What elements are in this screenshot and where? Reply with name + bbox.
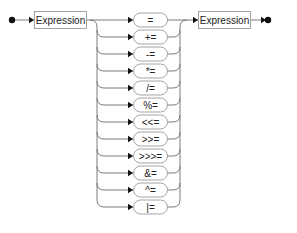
terminal-operator[interactable]: >>>= bbox=[134, 149, 168, 163]
nonterminal-expression-right[interactable]: Expression bbox=[199, 12, 251, 29]
nonterminal-label: Expression bbox=[200, 15, 249, 26]
arrow-icon bbox=[128, 51, 133, 57]
terminal-operator[interactable]: &= bbox=[134, 166, 168, 180]
terminal-operator[interactable]: <<= bbox=[134, 115, 168, 129]
operator-label: *= bbox=[146, 66, 156, 77]
terminal-operator[interactable]: *= bbox=[134, 64, 168, 78]
arrow-icon bbox=[128, 170, 133, 176]
operator-label: = bbox=[148, 15, 154, 26]
operator-label: ^= bbox=[145, 185, 156, 196]
arrow-icon bbox=[128, 204, 133, 210]
operator-label: /= bbox=[146, 83, 155, 94]
terminal-operator[interactable]: >>= bbox=[134, 132, 168, 146]
operator-label: += bbox=[145, 32, 157, 43]
nonterminal-expression-left[interactable]: Expression bbox=[35, 12, 87, 29]
terminal-operator[interactable]: = bbox=[134, 13, 168, 27]
arrow-icon bbox=[29, 17, 34, 23]
operator-label: <<= bbox=[142, 117, 160, 128]
start-dot-icon bbox=[9, 17, 15, 23]
arrow-icon bbox=[193, 17, 198, 23]
operator-label: >>>= bbox=[139, 151, 163, 162]
diagram-nodes: Expression=+=-=*=/=%=<<=>>=>>>=&=^=|=Exp… bbox=[9, 12, 271, 215]
arrow-icon bbox=[128, 102, 133, 108]
operator-label: &= bbox=[144, 168, 157, 179]
operator-label: |= bbox=[146, 202, 155, 213]
terminal-operator[interactable]: -= bbox=[134, 47, 168, 61]
arrow-icon bbox=[128, 119, 133, 125]
end-dot-icon bbox=[265, 17, 271, 23]
arrow-icon bbox=[128, 34, 133, 40]
operator-label: >>= bbox=[142, 134, 160, 145]
terminal-operator[interactable]: %= bbox=[134, 98, 168, 112]
terminal-operator[interactable]: += bbox=[134, 30, 168, 44]
terminal-operator[interactable]: |= bbox=[134, 200, 168, 214]
terminal-operator[interactable]: /= bbox=[134, 81, 168, 95]
operator-label: %= bbox=[143, 100, 158, 111]
arrow-icon bbox=[128, 68, 133, 74]
arrow-icon bbox=[128, 85, 133, 91]
arrow-icon bbox=[128, 153, 133, 159]
railroad-diagram: Expression=+=-=*=/=%=<<=>>=>>>=&=^=|=Exp… bbox=[0, 0, 297, 233]
nonterminal-label: Expression bbox=[36, 15, 85, 26]
arrow-icon bbox=[128, 17, 133, 23]
operator-label: -= bbox=[146, 49, 155, 60]
arrow-icon bbox=[128, 136, 133, 142]
arrow-icon bbox=[128, 187, 133, 193]
terminal-operator[interactable]: ^= bbox=[134, 183, 168, 197]
